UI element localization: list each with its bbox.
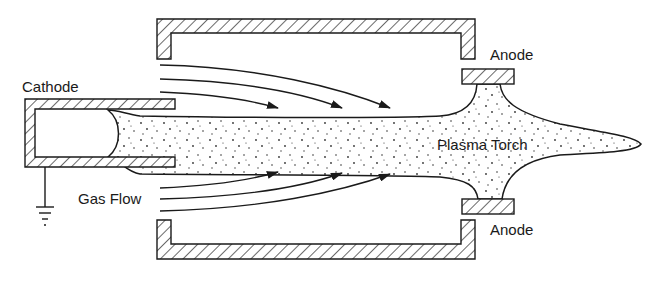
plasma-torch-diagram: Cathode Gas Flow Plasma Torch Anode Anod… [0, 0, 665, 282]
plasma-torch [108, 84, 641, 199]
plasma-torch-label: Plasma Torch [437, 136, 528, 153]
chamber-bottom-wall [157, 220, 475, 259]
gas-flow-arrows-lower [160, 172, 390, 211]
ground-icon [36, 167, 54, 225]
anode-bottom [462, 199, 514, 214]
anode-bottom-label: Anode [490, 221, 533, 238]
cathode-label: Cathode [22, 78, 79, 95]
anode-top-label: Anode [490, 46, 533, 63]
gas-flow-arrows-upper [160, 65, 390, 108]
chamber-top-wall [157, 19, 475, 59]
gas-flow-label: Gas Flow [78, 190, 142, 207]
anode-top [462, 69, 514, 84]
